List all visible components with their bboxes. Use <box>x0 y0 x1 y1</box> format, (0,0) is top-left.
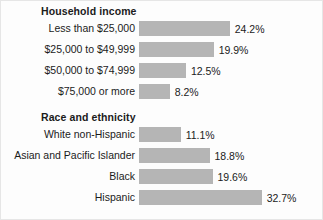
bar-row: White non-Hispanic 11.1% <box>1 126 323 147</box>
bar-fill <box>139 84 170 99</box>
bar-value-label: 19.6% <box>218 171 248 184</box>
bar-track: 24.2% <box>139 21 319 36</box>
bar-value-label: 24.2% <box>235 23 265 36</box>
bar-value-label: 11.1% <box>186 129 215 142</box>
bar-category-label: White non-Hispanic <box>1 128 135 141</box>
bar-row: Asian and Pacific Islander 18.8% <box>1 147 323 168</box>
bar-track: 12.5% <box>139 63 319 78</box>
bar-category-label: $50,000 to $74,999 <box>1 64 135 77</box>
bar-value-label: 12.5% <box>191 65 221 78</box>
bar-track: 18.8% <box>139 148 319 163</box>
bar-fill <box>139 190 262 205</box>
bar-track: 11.1% <box>139 127 319 142</box>
bar-row: $50,000 to $74,999 12.5% <box>1 62 323 83</box>
bar-row: $75,000 or more 8.2% <box>1 83 323 104</box>
bar-category-label: $75,000 or more <box>1 85 135 98</box>
bar-fill <box>139 42 214 57</box>
bar-rows-race-and-ethnicity: White non-Hispanic 11.1% Asian and Pacif… <box>1 126 323 210</box>
bar-fill <box>139 127 181 142</box>
bar-category-label: Black <box>1 170 135 183</box>
bar-row: Hispanic 32.7% <box>1 189 323 210</box>
bar-row: $25,000 to $49,999 19.9% <box>1 41 323 62</box>
bar-fill <box>139 169 213 184</box>
bar-row: Less than $25,000 24.2% <box>1 20 323 41</box>
bar-value-label: 19.9% <box>219 44 249 57</box>
bar-track: 19.6% <box>139 169 319 184</box>
bar-value-label: 8.2% <box>175 86 199 99</box>
group-title-race-and-ethnicity: Race and ethnicity <box>41 111 136 123</box>
bar-category-label: Hispanic <box>1 191 135 204</box>
bar-row: Black 19.6% <box>1 168 323 189</box>
bar-value-label: 18.8% <box>215 150 245 163</box>
bar-chart: Household income Less than $25,000 24.2%… <box>0 0 323 220</box>
bar-fill <box>139 148 210 163</box>
bar-category-label: Less than $25,000 <box>1 22 135 35</box>
bar-category-label: Asian and Pacific Islander <box>1 149 135 162</box>
bar-fill <box>139 63 186 78</box>
bar-track: 19.9% <box>139 42 319 57</box>
bar-fill <box>139 21 230 36</box>
bar-category-label: $25,000 to $49,999 <box>1 43 135 56</box>
bar-track: 8.2% <box>139 84 319 99</box>
group-title-household-income: Household income <box>41 5 137 17</box>
bar-track: 32.7% <box>139 190 319 205</box>
bar-rows-household-income: Less than $25,000 24.2% $25,000 to $49,9… <box>1 20 323 104</box>
bar-value-label: 32.7% <box>267 192 297 205</box>
